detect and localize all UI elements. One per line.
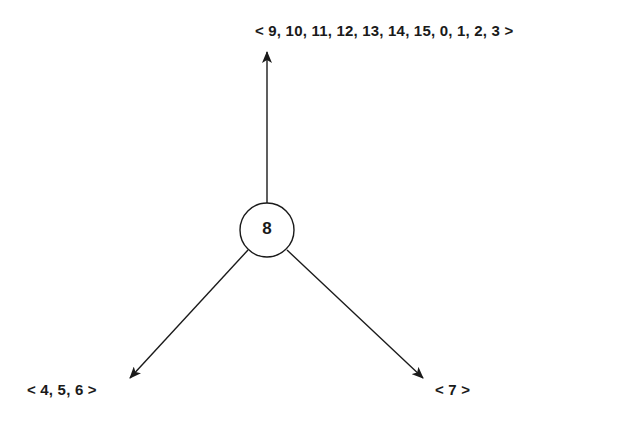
root-node-label: 8 xyxy=(240,219,294,239)
right-child-label: < 7 > xyxy=(435,381,470,398)
top-child-label: < 9, 10, 11, 12, 13, 14, 15, 0, 1, 2, 3 … xyxy=(255,22,513,39)
diagram-canvas xyxy=(0,0,637,426)
arrow-down-left xyxy=(130,250,248,378)
left-child-label: < 4, 5, 6 > xyxy=(27,381,97,398)
arrow-down-right xyxy=(287,250,423,378)
